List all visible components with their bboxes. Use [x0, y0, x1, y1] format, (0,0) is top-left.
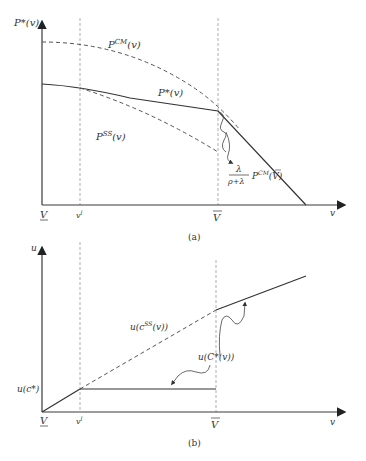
p-ss-curve: [80, 88, 218, 152]
squiggle-arrow-up: [219, 303, 245, 356]
y-axis-label: P*(v): [13, 17, 39, 28]
x-axis-label: v: [330, 208, 335, 218]
u-css-label: u(cSS(v)): [130, 320, 169, 332]
x-axis-label: v: [330, 417, 335, 427]
u-cstar-label: u(C*(v)): [198, 352, 235, 362]
p-ss-label: PSS(v): [95, 130, 126, 142]
svg-text:ρ+λ: ρ+λ: [227, 177, 244, 186]
tick-v-lower: V: [40, 209, 49, 220]
panel-a-caption: (a): [188, 232, 200, 242]
gap-squiggle-arrow: [226, 132, 232, 163]
tick-v-l: vl: [76, 209, 83, 220]
u-cstar-segment-3: [216, 276, 306, 310]
p-cm-curve: [42, 42, 240, 130]
p-cm-label: PCM(v): [107, 38, 141, 50]
p-star-curve: [42, 84, 306, 205]
u-cstar-segment-1: [42, 389, 80, 412]
p-star-label: P*(v): [157, 87, 183, 98]
svg-text:PCM(V): PCM(V): [251, 169, 283, 181]
u-cstar-ytick-label: u(c*): [17, 384, 40, 394]
svg-text:λ: λ: [235, 164, 242, 174]
squiggle-arrow-down: [172, 365, 210, 384]
y-axis-label: u: [31, 243, 37, 253]
panel-b: u u(c*) u(cSS(v)) u(C*(v)) V vl V v (b): [17, 242, 344, 448]
tick-v-bar: V: [211, 419, 220, 430]
gap-annotation: λ ρ+λ PCM(V): [227, 164, 283, 186]
panel-a: P*(v) PCM(v) P*(v) PSS(v) λ ρ+λ PCM(V) V…: [13, 17, 344, 242]
panel-b-caption: (b): [188, 438, 201, 448]
figure: P*(v) PCM(v) P*(v) PSS(v) λ ρ+λ PCM(V) V…: [0, 0, 366, 461]
tick-v-bar: V: [213, 212, 222, 223]
tick-v-l: vl: [76, 415, 83, 426]
tick-v-lower: V: [40, 415, 49, 426]
